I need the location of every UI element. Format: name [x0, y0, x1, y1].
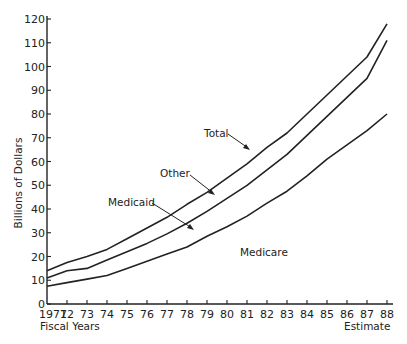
x-tick-label: 85: [320, 308, 334, 321]
x-tick-label: 78: [180, 308, 194, 321]
line-chart: 0102030405060708090100110120 19717273747…: [0, 0, 407, 344]
x-tick-label: 77: [160, 308, 174, 321]
y-tick-label: 80: [31, 108, 45, 121]
annotation-other-arrow: [190, 175, 213, 193]
y-axis: 0102030405060708090100110120: [24, 13, 51, 311]
y-tick-label: 110: [24, 37, 45, 50]
x-tick-label: 75: [120, 308, 134, 321]
y-tick-label: 120: [24, 13, 45, 26]
annotation-medicare: Medicare: [240, 246, 288, 258]
x-tick-label: 81: [240, 308, 254, 321]
y-tick-label: 40: [31, 203, 45, 216]
x-tick-label: 83: [280, 308, 294, 321]
x-axis: 19717273747576777879808182838485868788: [39, 300, 394, 321]
annotation-total: Total: [203, 127, 229, 139]
arrow-head-icon: [187, 224, 194, 230]
x-tick-label: 82: [260, 308, 274, 321]
x-tick-label: 79: [200, 308, 214, 321]
series-lines: [47, 24, 387, 286]
y-tick-label: 100: [24, 61, 45, 74]
y-tick-label: 60: [31, 156, 45, 169]
annotation-medicaid: Medicaid: [108, 196, 155, 208]
x-tick-label: 84: [300, 308, 314, 321]
y-tick-label: 30: [31, 227, 45, 240]
x-tick-label: 76: [140, 308, 154, 321]
x-axis-title: Fiscal Years: [40, 320, 100, 332]
series-line-medicare-medicaid-other-boundary: [47, 40, 387, 278]
y-tick-label: 10: [31, 274, 45, 287]
series-line-medicare: [47, 114, 387, 286]
y-tick-label: 90: [31, 84, 45, 97]
y-tick-label: 20: [31, 251, 45, 264]
x-tick-label: 80: [220, 308, 234, 321]
annotation-medicaid-arrow: [152, 203, 192, 228]
annotation-other: Other: [160, 167, 190, 179]
y-axis-title: Billions of Dollars: [12, 138, 24, 229]
x-axis-estimate-label: Estimate: [344, 320, 390, 332]
x-tick-label: 74: [100, 308, 114, 321]
y-tick-label: 70: [31, 132, 45, 145]
series-line-total: [47, 24, 387, 271]
y-tick-label: 50: [31, 179, 45, 192]
